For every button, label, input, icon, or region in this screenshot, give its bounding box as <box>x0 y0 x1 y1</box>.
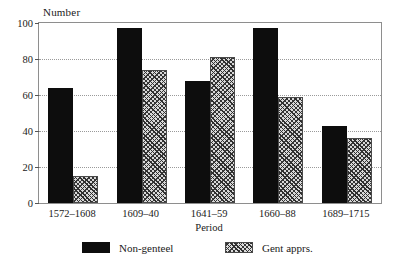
y-tick-label: 60 <box>23 90 34 101</box>
plot-area: 020406080100 <box>38 22 382 204</box>
bar-group <box>185 23 235 203</box>
x-axis-title: Period <box>195 222 222 233</box>
legend-entry: Non-genteel <box>82 240 173 255</box>
x-tick-label: 1641–59 <box>191 208 228 219</box>
bar-gent-apprs <box>73 176 98 203</box>
bar-non-genteel <box>322 126 347 203</box>
bar-group <box>253 23 303 203</box>
x-tick-label: 1689–1715 <box>322 208 369 219</box>
x-tick-label: 1572–1608 <box>49 208 96 219</box>
bar-gent-apprs <box>142 70 167 203</box>
bar-gent-apprs <box>347 138 372 203</box>
y-tick-label: 20 <box>23 162 34 173</box>
bar-group <box>117 23 167 203</box>
bars-layer <box>39 23 381 203</box>
bar-group <box>48 23 98 203</box>
y-tick-mark <box>35 203 39 204</box>
bar-group <box>322 23 372 203</box>
bar-non-genteel <box>185 81 210 203</box>
legend-entry: Gent apprs. <box>225 240 313 255</box>
y-axis-title: Number <box>43 6 80 18</box>
bar-non-genteel <box>48 88 73 203</box>
legend-label: Non-genteel <box>119 242 173 254</box>
bar-gent-apprs <box>278 97 303 203</box>
bar-chart-figure: Number 020406080100 1572–16081609–401641… <box>0 0 409 268</box>
chart-legend: Non-genteelGent apprs. <box>0 240 409 260</box>
x-tick-label: 1609–40 <box>122 208 159 219</box>
solid-swatch <box>82 242 110 253</box>
y-tick-label: 40 <box>23 126 34 137</box>
x-tick-label: 1660–88 <box>259 208 296 219</box>
bar-gent-apprs <box>210 57 235 203</box>
y-tick-label: 80 <box>23 54 34 65</box>
y-tick-label: 100 <box>17 18 33 29</box>
hatched-swatch <box>225 242 253 253</box>
bar-non-genteel <box>117 28 142 203</box>
legend-label: Gent apprs. <box>262 242 313 254</box>
bar-non-genteel <box>253 28 278 203</box>
y-tick-label: 0 <box>28 198 33 209</box>
